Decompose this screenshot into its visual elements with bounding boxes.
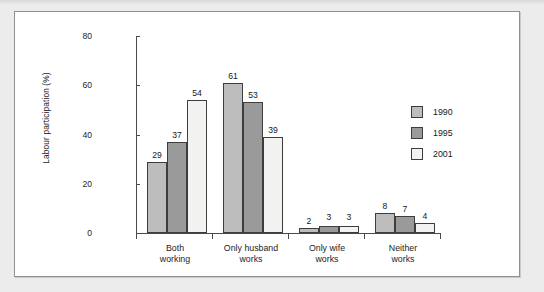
bar-only-husband-works-2001[interactable] bbox=[263, 137, 283, 233]
legend-label-1990: 1990 bbox=[433, 106, 453, 118]
page-root: Labour participation (%) 80 60 40 20 0 bbox=[0, 0, 544, 292]
bar-value-neither-works-1995: 7 bbox=[395, 204, 415, 214]
bar-value-only-wife-works-2001: 3 bbox=[339, 212, 359, 222]
y-axis-title: Labour participation (%) bbox=[41, 38, 51, 198]
x-tick-0 bbox=[136, 234, 137, 239]
x-category-label-only-husband-works: Only husband works bbox=[213, 243, 289, 265]
y-tick-40 bbox=[136, 135, 140, 136]
bar-both-working-1995[interactable] bbox=[167, 142, 187, 233]
bar-value-only-wife-works-1990: 2 bbox=[299, 216, 319, 226]
scan-edge-texture bbox=[0, 0, 544, 6]
y-tick-label-20: 20 bbox=[52, 179, 92, 189]
bar-value-only-husband-works-2001: 39 bbox=[263, 125, 283, 135]
bar-only-wife-works-2001[interactable] bbox=[339, 226, 359, 233]
bar-value-both-working-1990: 29 bbox=[147, 150, 167, 160]
x-tick-1 bbox=[212, 234, 213, 239]
legend-label-2001: 2001 bbox=[433, 148, 453, 160]
bar-value-neither-works-2001: 4 bbox=[415, 211, 435, 221]
y-tick-label-0: 0 bbox=[52, 228, 92, 238]
bar-neither-works-1995[interactable] bbox=[395, 216, 415, 233]
bar-value-only-husband-works-1990: 61 bbox=[223, 71, 243, 81]
y-tick-80 bbox=[136, 36, 140, 37]
x-category-label-both-working: Both working bbox=[137, 243, 213, 265]
x-tick-2 bbox=[288, 234, 289, 239]
legend-swatch-1990-icon bbox=[411, 106, 423, 118]
bar-both-working-1990[interactable] bbox=[147, 162, 167, 233]
bar-value-both-working-2001: 54 bbox=[187, 88, 207, 98]
bar-value-neither-works-1990: 8 bbox=[375, 201, 395, 211]
category-line-2: working bbox=[137, 254, 213, 265]
bar-only-wife-works-1990[interactable] bbox=[299, 228, 319, 233]
category-line-2: works bbox=[289, 254, 365, 265]
bar-neither-works-2001[interactable] bbox=[415, 223, 435, 233]
x-category-label-only-wife-works: Only wife works bbox=[289, 243, 365, 265]
chart-frame: Labour participation (%) 80 60 40 20 0 bbox=[14, 11, 520, 277]
bar-only-husband-works-1995[interactable] bbox=[243, 102, 263, 233]
category-line-1: Both bbox=[137, 243, 213, 254]
legend-swatch-2001-icon bbox=[411, 148, 423, 160]
bar-only-husband-works-1990[interactable] bbox=[223, 83, 243, 233]
legend-label-1995: 1995 bbox=[433, 127, 453, 139]
category-line-1: Neither bbox=[365, 243, 441, 254]
bar-only-wife-works-1995[interactable] bbox=[319, 226, 339, 233]
bar-neither-works-1990[interactable] bbox=[375, 213, 395, 233]
chart-plot-area: Labour participation (%) 80 60 40 20 0 bbox=[15, 12, 521, 278]
category-line-2: works bbox=[365, 254, 441, 265]
y-tick-20 bbox=[136, 184, 140, 185]
bar-both-working-2001[interactable] bbox=[187, 100, 207, 233]
category-line-1: Only wife bbox=[289, 243, 365, 254]
y-tick-label-40: 40 bbox=[52, 130, 92, 140]
x-category-label-neither-works: Neither works bbox=[365, 243, 441, 265]
bar-value-both-working-1995: 37 bbox=[167, 130, 187, 140]
x-tick-3 bbox=[364, 234, 365, 239]
y-tick-label-80: 80 bbox=[52, 31, 92, 41]
y-tick-label-60: 60 bbox=[52, 80, 92, 90]
category-line-1: Only husband bbox=[213, 243, 289, 254]
x-tick-4 bbox=[440, 234, 441, 239]
category-line-2: works bbox=[213, 254, 289, 265]
bar-value-only-husband-works-1995: 53 bbox=[243, 90, 263, 100]
y-tick-60 bbox=[136, 85, 140, 86]
bar-value-only-wife-works-1995: 3 bbox=[319, 212, 339, 222]
legend-swatch-1995-icon bbox=[411, 127, 423, 139]
